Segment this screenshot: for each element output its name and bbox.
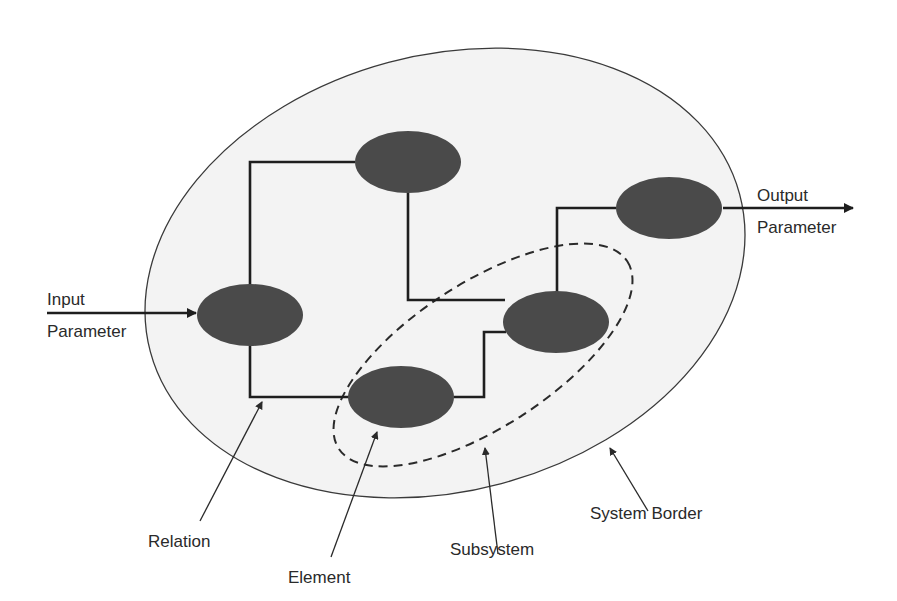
element-left — [197, 284, 303, 346]
element-bottom — [348, 366, 454, 428]
subsystem-label: Subsystem — [450, 540, 534, 559]
element-output — [616, 177, 722, 239]
system-diagram: Input Parameter Output Parameter Relatio… — [0, 0, 897, 601]
relation-label: Relation — [148, 532, 210, 551]
system-border — [94, 0, 796, 563]
system-border-label: System Border — [590, 504, 703, 523]
element-top — [355, 131, 461, 193]
input-label-line2: Parameter — [47, 322, 127, 341]
output-label-line1: Output — [757, 186, 808, 205]
element-middle-right — [503, 291, 609, 353]
output-label-line2: Parameter — [757, 218, 837, 237]
element-label: Element — [288, 568, 351, 587]
system-border-pointer — [610, 448, 648, 511]
input-label-line1: Input — [47, 290, 85, 309]
